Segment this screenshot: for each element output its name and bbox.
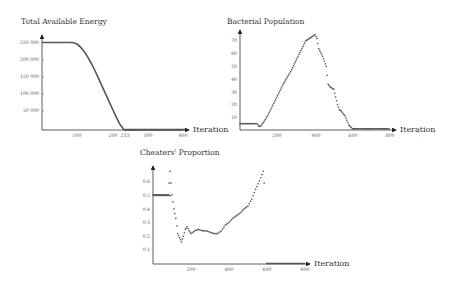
bacteria-y-ticks: 70 60 50 40 30 20 10 [231, 38, 237, 120]
bacteria-series [239, 34, 389, 129]
energy-title: Total Available Energy [21, 17, 107, 26]
svg-text:200: 200 [109, 133, 118, 138]
svg-text:400: 400 [179, 133, 188, 138]
svg-text:100 000: 100 000 [20, 91, 39, 96]
svg-text:0.5: 0.5 [143, 193, 150, 198]
svg-text:70: 70 [231, 38, 237, 43]
svg-text:30: 30 [231, 90, 237, 95]
svg-text:200: 200 [273, 133, 282, 138]
energy-x-label: Iteration [193, 125, 228, 134]
svg-text:800: 800 [301, 267, 310, 272]
svg-text:400: 400 [225, 267, 234, 272]
energy-series [42, 43, 183, 131]
svg-text:60: 60 [231, 51, 237, 56]
svg-text:0.3: 0.3 [143, 220, 150, 225]
svg-text:0.1: 0.1 [143, 247, 150, 252]
svg-text:233: 233 [121, 133, 130, 138]
cheaters-title: Cheaters' Proportion [140, 148, 220, 157]
bacteria-x-label: Iteration [400, 125, 435, 134]
svg-text:200 000: 200 000 [20, 57, 39, 62]
cheaters-series [152, 171, 265, 243]
svg-text:200: 200 [187, 267, 196, 272]
energy-plot: Total Available Energy Iteration 250 000… [20, 17, 228, 138]
cheaters-plot: Cheaters' Proportion Iteration 0.6 0.5 0… [140, 148, 349, 272]
svg-text:50: 50 [231, 64, 237, 69]
cheaters-x-label: Iteration [314, 259, 349, 268]
cheaters-x-ticks: 200 400 600 800 [187, 267, 310, 272]
svg-text:400: 400 [312, 133, 321, 138]
svg-text:150 000: 150 000 [20, 74, 39, 79]
svg-text:20: 20 [231, 102, 237, 107]
svg-text:0.2: 0.2 [143, 234, 150, 239]
svg-text:300: 300 [144, 133, 153, 138]
svg-text:600: 600 [263, 267, 272, 272]
svg-text:0.4: 0.4 [143, 207, 150, 212]
svg-text:250 000: 250 000 [20, 40, 39, 45]
svg-text:800: 800 [386, 133, 395, 138]
svg-text:600: 600 [349, 133, 358, 138]
bacteria-x-ticks: 200 400 600 800 [273, 133, 395, 138]
cheaters-y-ticks: 0.6 0.5 0.4 0.3 0.2 0.1 [143, 179, 150, 252]
svg-text:40: 40 [231, 77, 237, 82]
bacteria-title: Bacterial Population [227, 17, 305, 26]
svg-text:100: 100 [73, 133, 82, 138]
svg-text:10: 10 [231, 115, 237, 120]
bacteria-plot: Bacterial Population Iteration 70 60 50 … [227, 17, 435, 138]
svg-text:0.6: 0.6 [143, 179, 150, 184]
energy-y-ticks: 250 000 200 000 150 000 100 000 50 000 [20, 40, 44, 113]
energy-x-ticks: 100 200 233 300 400 [73, 133, 188, 138]
svg-text:50 000: 50 000 [23, 108, 39, 113]
